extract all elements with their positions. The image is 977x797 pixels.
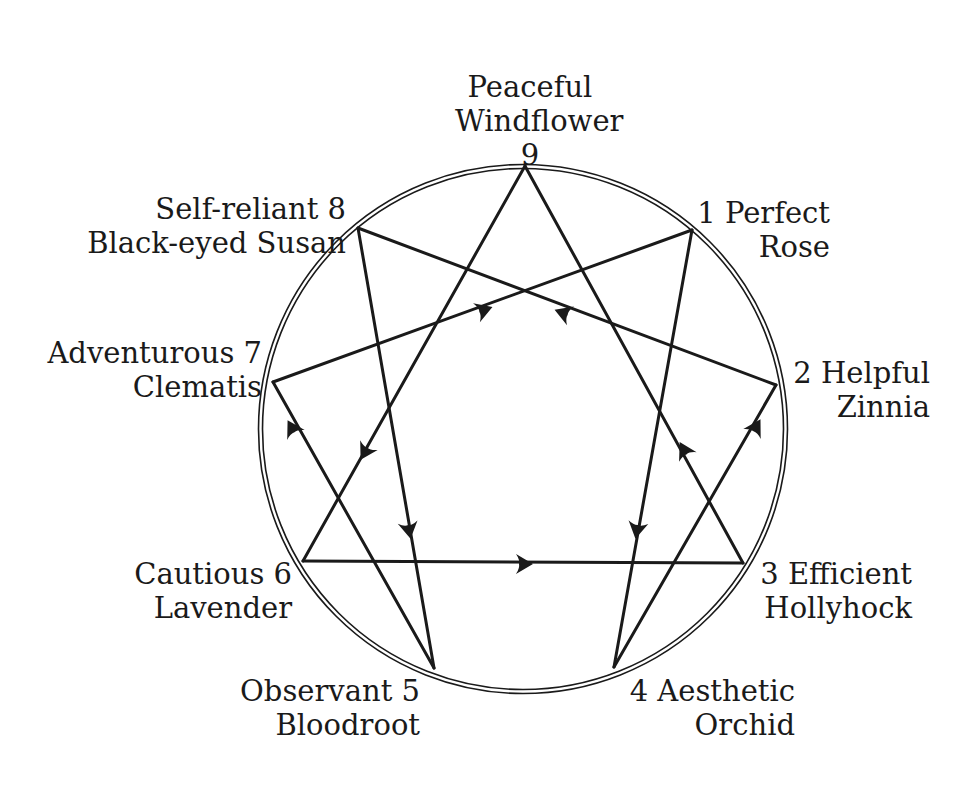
label-9-flower: Windflower <box>455 104 605 138</box>
label-1-flower: Rose <box>690 230 830 264</box>
label-5-flower: Bloodroot <box>220 708 420 742</box>
label-point-8: Self-reliant 8 Black-eyed Susan <box>10 192 346 260</box>
label-1-trait: 1 Perfect <box>690 196 830 230</box>
label-point-2: 2 Helpful Zinnia <box>780 356 930 424</box>
label-point-4: 4 Aesthetic Orchid <box>625 674 795 742</box>
label-4-flower: Orchid <box>625 708 795 742</box>
label-4-trait: 4 Aesthetic <box>625 674 795 708</box>
label-8-trait: Self-reliant 8 <box>10 192 346 226</box>
label-5-trait: Observant 5 <box>220 674 420 708</box>
label-point-7: Adventurous 7 Clematis <box>10 336 262 404</box>
label-9-trait: Peaceful <box>455 70 605 104</box>
label-3-trait: 3 Efficient <box>750 557 912 591</box>
label-point-9: Peaceful Windflower 9 <box>455 70 605 172</box>
label-2-trait: 2 Helpful <box>780 356 930 390</box>
label-3-flower: Hollyhock <box>750 591 912 625</box>
label-2-flower: Zinnia <box>780 390 930 424</box>
direction-arrows <box>279 298 769 575</box>
label-point-6: Cautious 6 Lavender <box>100 557 292 625</box>
label-7-trait: Adventurous 7 <box>10 336 262 370</box>
label-6-flower: Lavender <box>100 591 292 625</box>
label-9-number: 9 <box>455 138 605 172</box>
label-point-3: 3 Efficient Hollyhock <box>750 557 912 625</box>
arrow-icon <box>516 554 533 574</box>
label-6-trait: Cautious 6 <box>100 557 292 591</box>
label-7-flower: Clematis <box>10 370 262 404</box>
label-point-1: 1 Perfect Rose <box>690 196 830 264</box>
arrow-icon <box>352 440 378 465</box>
label-8-flower: Black-eyed Susan <box>10 226 346 260</box>
label-point-5: Observant 5 Bloodroot <box>220 674 420 742</box>
arrow-icon <box>279 415 305 440</box>
